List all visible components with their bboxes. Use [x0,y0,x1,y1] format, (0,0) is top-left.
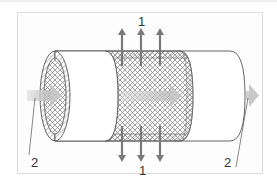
leader-line-in [29,98,35,155]
label-flow-in: 2 [31,156,38,169]
label-flow-out: 2 [224,156,231,169]
diagram-canvas: 1 1 2 2 [0,0,277,182]
feed-arrow-out [246,84,259,107]
label-permeate-top: 1 [138,15,145,28]
label-permeate-bottom: 1 [139,164,146,177]
